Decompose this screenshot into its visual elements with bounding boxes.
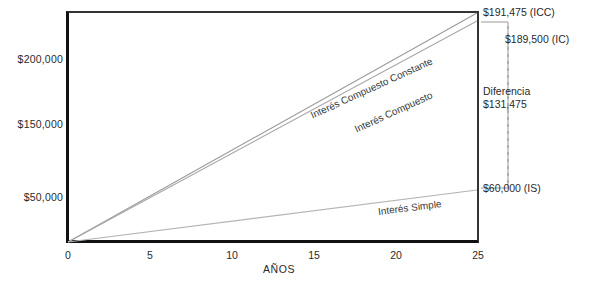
x-axis-tick-20: 20 (384, 249, 408, 261)
annotation-is-endpoint: $60,000 (IS) (483, 182, 541, 194)
y-axis-tick-200000: $200,000 (8, 53, 63, 65)
x-axis-title-text: AÑOS (263, 263, 295, 275)
y-axis-tick-150000: $150,000 (8, 118, 63, 130)
interest-growth-chart: $200,000 $150,000 $50,000 0 5 10 15 20 2… (0, 0, 596, 281)
x-axis-tick-0: 0 (56, 249, 80, 261)
x-axis-tick-5: 5 (138, 249, 162, 261)
x-axis-tick-10: 10 (220, 249, 244, 261)
annotation-ic-endpoint: $189,500 (IC) (505, 33, 569, 45)
x-axis-tick-25: 25 (466, 249, 490, 261)
x-axis-title: AÑOS (0, 263, 596, 275)
annotation-icc-endpoint: $191,475 (ICC) (483, 6, 555, 18)
x-axis-tick-15: 15 (302, 249, 326, 261)
annotation-difference-value: $131,475 (483, 98, 527, 110)
annotation-difference-title: Diferencia (483, 85, 530, 97)
y-axis-tick-50000: $50,000 (8, 191, 63, 203)
